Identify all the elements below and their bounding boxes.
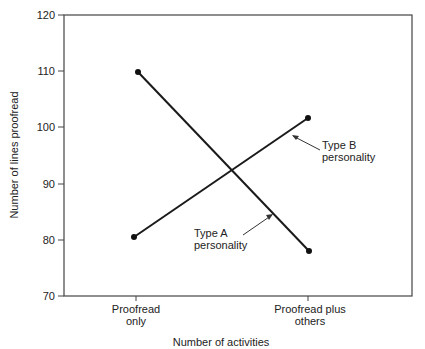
y-tick-label: 110: [37, 65, 55, 77]
svg-text:Type A: Type A: [194, 227, 228, 239]
svg-text:personality: personality: [322, 151, 376, 163]
svg-text:personality: personality: [194, 239, 248, 251]
y-tick-label: 120: [37, 9, 55, 21]
x-axis: Proofread only Proofread plus others: [112, 296, 346, 327]
annotation-type-b: Type A personality: [194, 214, 273, 251]
y-tick-label: 100: [37, 121, 55, 133]
x-tick-label: only: [126, 315, 147, 327]
x-tick-label: Proofread plus: [274, 303, 346, 315]
y-tick-label: 80: [43, 234, 55, 246]
series-type-b: [131, 115, 311, 240]
y-axis-label: Number of lines proofread: [8, 91, 20, 218]
line-chart: 120 110 100 90 80 70 Number of lines pro…: [0, 0, 425, 349]
y-tick-label: 70: [43, 290, 55, 302]
svg-text:Type B: Type B: [322, 139, 356, 151]
y-axis: 120 110 100 90 80 70: [37, 9, 64, 302]
annotation-type-a: Type B personality: [292, 135, 376, 163]
x-tick-label: others: [295, 315, 326, 327]
x-tick-label: Proofread: [112, 303, 160, 315]
y-tick-label: 90: [43, 178, 55, 190]
x-axis-label: Number of activities: [173, 336, 270, 348]
